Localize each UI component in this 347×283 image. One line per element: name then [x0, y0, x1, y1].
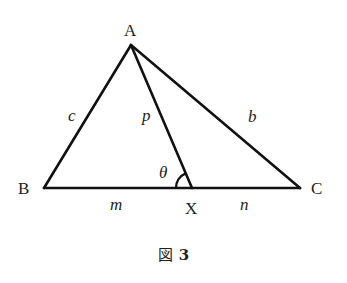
caption-prefix: 図: [158, 246, 173, 264]
vertex-label-b: B: [18, 179, 29, 198]
vertex-label-a: A: [124, 21, 137, 40]
angle-theta-arc: [176, 173, 186, 188]
side-ab: [44, 45, 131, 188]
label-n: n: [240, 195, 249, 214]
figure-caption: 図3: [0, 243, 347, 264]
label-theta: θ: [159, 163, 167, 182]
side-ac: [131, 45, 300, 188]
label-c: c: [68, 106, 76, 125]
label-m: m: [110, 195, 122, 214]
caption-number: 3: [179, 246, 189, 264]
vertex-label-c: C: [311, 179, 322, 198]
label-p: p: [141, 106, 151, 125]
vertex-label-x: X: [185, 199, 197, 218]
label-b: b: [248, 107, 257, 126]
triangle-diagram: A B C X c b p m n θ: [0, 0, 347, 283]
